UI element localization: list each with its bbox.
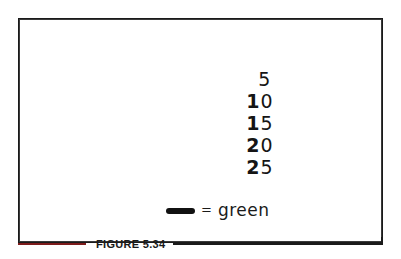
number-row: 5 [196, 46, 316, 68]
figure-frame: 5 10 15 20 25 = green [18, 18, 383, 243]
number-25-lead: 2 [246, 156, 260, 178]
number-20-trail: 0 [260, 134, 273, 156]
number-25-trail: 5 [260, 156, 273, 178]
figure-caption: FIGURE 5.34 [96, 238, 165, 250]
legend-bar-swatch-icon [166, 208, 195, 214]
number-20-lead: 2 [246, 134, 260, 156]
number-10-lead: 1 [246, 90, 260, 112]
caption-rule-right [173, 243, 383, 245]
number-list: 5 10 15 20 25 [196, 46, 316, 156]
legend: = green [166, 202, 270, 219]
caption-rule-left [18, 243, 86, 245]
number-10-trail: 0 [260, 90, 273, 112]
legend-equals-sign: = [201, 203, 212, 216]
number-15-lead: 1 [246, 112, 260, 134]
caption-band: FIGURE 5.34 [0, 236, 401, 252]
legend-label: green [218, 202, 270, 219]
number-5: 5 [258, 68, 271, 90]
number-15-trail: 5 [260, 112, 273, 134]
